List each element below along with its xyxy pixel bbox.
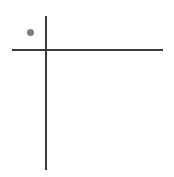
x-axis-line (12, 49, 163, 51)
y-axis-line (45, 16, 47, 170)
figure-canvas (0, 0, 174, 177)
scatter-point (27, 29, 34, 36)
